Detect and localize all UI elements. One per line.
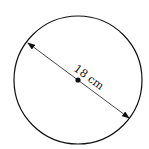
circle-diagram: 18 cm: [0, 0, 149, 149]
diagram-canvas: 18 cm: [0, 0, 149, 149]
